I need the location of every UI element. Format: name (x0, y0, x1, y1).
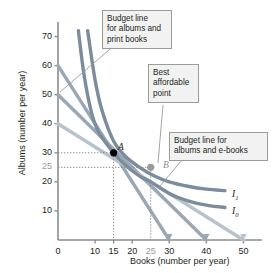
x-tick-label: 0 (44, 246, 72, 256)
data-point-a (110, 149, 117, 156)
leader-line-print-books (60, 44, 116, 92)
data-point-b (147, 164, 154, 171)
curve-label-i1-sub: 1 (235, 194, 238, 201)
curve-label-i1: I1 (232, 189, 238, 201)
point-label-b: B (163, 160, 169, 170)
annotation-budget-line-ebooks: Budget line for albums and e-books (169, 132, 268, 161)
y-tick-label: 50 (24, 89, 52, 99)
x-tick-label: 30 (155, 246, 183, 256)
y-tick-label: 10 (24, 205, 52, 215)
y-tick-label: 70 (24, 31, 52, 41)
point-label-a: A (118, 142, 124, 152)
curve-label-i0: I0 (232, 206, 238, 218)
chart-figure: Budget line for albums and print books B… (0, 0, 274, 273)
x-tick-label: 50 (229, 246, 257, 256)
curve-label-i0-sub: 0 (235, 211, 238, 218)
leader-line-best-point (158, 105, 163, 163)
y-tick-label: 60 (24, 60, 52, 70)
x-tick-label: 40 (192, 246, 220, 256)
x-axis-label: Books (number per year) (130, 256, 230, 266)
indifference-curve-i1 (88, 31, 225, 191)
y-tick-label: 25 (24, 161, 52, 171)
y-tick-label: 20 (24, 176, 52, 186)
annotation-best-affordable-point: Best affordable point (148, 64, 199, 103)
y-tick-label: 40 (24, 118, 52, 128)
y-tick-label: 30 (24, 147, 52, 157)
annotation-budget-line-print-books: Budget line for albums and print books (102, 10, 172, 49)
